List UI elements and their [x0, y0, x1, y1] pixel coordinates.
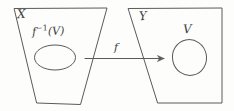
- codomain-label: Y: [139, 10, 148, 23]
- diagram-canvas: [0, 0, 234, 111]
- preimage-set-ellipse: [35, 45, 76, 70]
- preimage-label: f−1(V): [32, 25, 65, 37]
- domain-region-outline: [15, 8, 108, 105]
- mapping-label: f: [114, 42, 118, 53]
- mapping-arrow: [85, 56, 164, 62]
- image-set-label: V: [183, 23, 192, 35]
- image-set-ellipse: [169, 36, 210, 78]
- function-preimage-diagram: X f−1(V) Y V f: [0, 0, 234, 111]
- preimage-label-exponent: −1: [36, 23, 48, 32]
- preimage-label-argument: (V): [48, 24, 65, 38]
- domain-label: X: [17, 8, 26, 20]
